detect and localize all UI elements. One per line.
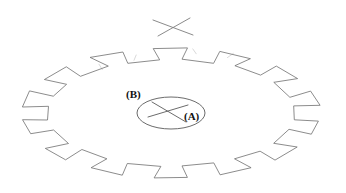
hub-label-a: (A) [184,111,199,122]
gear-sketch-svg [0,0,346,193]
figure-canvas: (B) (A) [0,0,346,193]
hub-label-b: (B) [126,89,141,100]
canvas-background [0,0,346,193]
